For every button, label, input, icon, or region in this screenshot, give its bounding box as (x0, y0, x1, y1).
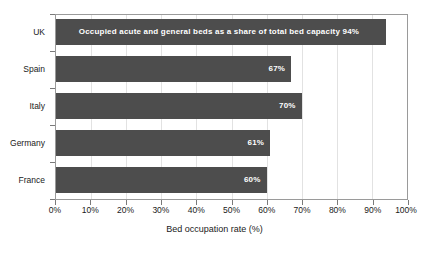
x-axis-tick-label-70: 70% (294, 205, 311, 215)
x-axis-tick-label-10: 10% (82, 205, 99, 215)
bar-chart: UK Spain Italy Germany France (0, 0, 429, 253)
x-axis-tick-label-50: 50% (223, 205, 240, 215)
bar-label-italy: 70% (279, 93, 296, 119)
y-axis-label-4: France (19, 167, 45, 193)
bar-spain[interactable]: 67% (56, 56, 291, 82)
bar-italy[interactable]: 70% (56, 93, 302, 119)
x-axis-tick-label-60: 60% (258, 205, 275, 215)
bar-row: 61% (56, 130, 407, 156)
bar-row: 60% (56, 167, 407, 193)
y-axis-label-3: Germany (10, 130, 45, 156)
bar-row: 70% (56, 93, 407, 119)
bar-row: 67% (56, 56, 407, 82)
bar-series: Occupied acute and general beds as a sha… (56, 15, 407, 199)
bar-label-uk: Occupied acute and general beds as a sha… (56, 19, 386, 45)
x-axis-tick-label-0: 0% (49, 205, 61, 215)
y-axis-label-1: Spain (23, 56, 45, 82)
bar-france[interactable]: 60% (56, 167, 267, 193)
bar-label-germany: 61% (247, 130, 264, 156)
y-axis-label-0: UK (33, 19, 45, 45)
x-axis-tick-label-40: 40% (188, 205, 205, 215)
x-axis-tick-label-90: 90% (364, 205, 381, 215)
x-axis-title: Bed occupation rate (%) (0, 224, 429, 234)
y-axis-category-labels: UK Spain Italy Germany France (0, 14, 51, 200)
plot-area: Occupied acute and general beds as a sha… (55, 14, 408, 200)
x-axis-tick-label-80: 80% (329, 205, 346, 215)
x-axis-tick-label-30: 30% (152, 205, 169, 215)
bar-label-spain: 67% (269, 56, 286, 82)
x-axis-tick-label-100: 100% (395, 205, 417, 215)
bar-uk[interactable]: Occupied acute and general beds as a sha… (56, 19, 386, 45)
y-axis-label-2: Italy (29, 93, 45, 119)
x-axis-tick-labels: 0% 10% 20% 30% 40% 50% 60% 70% 80% 90% 1… (0, 205, 429, 219)
bar-row: Occupied acute and general beds as a sha… (56, 19, 407, 45)
bar-germany[interactable]: 61% (56, 130, 270, 156)
x-axis-tick-label-20: 20% (117, 205, 134, 215)
bar-label-france: 60% (244, 167, 261, 193)
